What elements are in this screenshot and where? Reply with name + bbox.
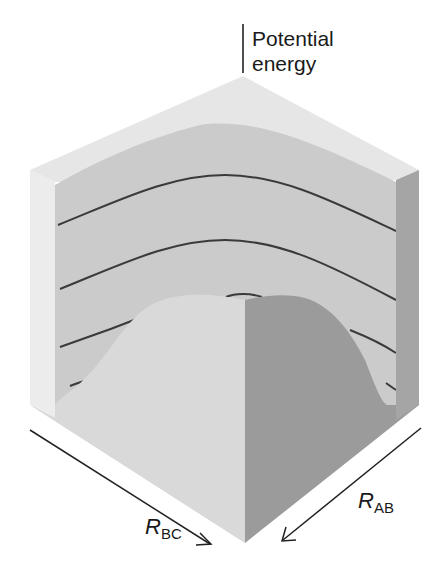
rab-subscript: AB	[374, 499, 394, 516]
potential-energy-surface-diagram: Potential energy RBC RAB	[0, 0, 447, 574]
block-left-edge-face	[30, 170, 55, 418]
block-right-edge-face	[396, 170, 419, 420]
rab-symbol: R	[358, 488, 374, 513]
rab-axis-label: RAB	[358, 488, 394, 516]
potential-energy-label-line2: energy	[252, 52, 317, 75]
potential-energy-label: Potential energy	[252, 27, 340, 75]
potential-energy-label-line1: Potential	[252, 27, 334, 50]
rbc-axis-label: RBC	[145, 514, 182, 542]
rbc-subscript: BC	[161, 525, 182, 542]
rbc-symbol: R	[145, 514, 161, 539]
